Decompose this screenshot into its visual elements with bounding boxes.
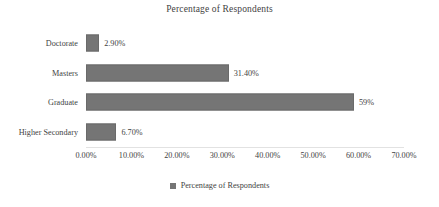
x-axis-tick-labels: 0.00%10.00%20.00%30.00%40.00%50.00%60.00…	[86, 151, 404, 165]
bar-row: Graduate 59%	[86, 88, 404, 118]
bar-doctorate[interactable]	[86, 34, 99, 51]
bar-row: Higher Secondary 6.70%	[86, 117, 404, 147]
chart-legend: Percentage of Respondents	[0, 181, 439, 190]
x-tick-label: 50.00%	[301, 151, 326, 160]
x-tick-label: 20.00%	[164, 151, 189, 160]
x-tick-label: 60.00%	[346, 151, 371, 160]
category-label-doctorate: Doctorate	[46, 38, 78, 47]
x-tick-label: 30.00%	[210, 151, 235, 160]
bar-row: Doctorate 2.90%	[86, 28, 404, 58]
category-label-graduate: Graduate	[48, 98, 78, 107]
x-tick-label: 40.00%	[255, 151, 280, 160]
plot-area: Doctorate 2.90% Masters 31.40% Graduate …	[86, 28, 404, 147]
chart-title: Percentage of Respondents	[0, 4, 439, 14]
bar-value-higher-secondary: 6.70%	[121, 128, 142, 137]
legend-label: Percentage of Respondents	[181, 181, 270, 190]
x-tick-label: 0.00%	[75, 151, 96, 160]
x-axis-line	[86, 147, 404, 148]
x-tick-label: 10.00%	[119, 151, 144, 160]
bar-value-masters: 31.40%	[234, 68, 259, 77]
bar-higher-secondary[interactable]	[86, 124, 116, 141]
bar-masters[interactable]	[86, 64, 229, 81]
bar-value-graduate: 59%	[359, 98, 374, 107]
category-label-masters: Masters	[52, 68, 78, 77]
bar-graduate[interactable]	[86, 94, 354, 111]
bar-value-doctorate: 2.90%	[104, 38, 125, 47]
bar-row: Masters 31.40%	[86, 58, 404, 88]
category-label-higher-secondary: Higher Secondary	[19, 128, 78, 137]
x-tick-label: 70.00%	[391, 151, 416, 160]
legend-swatch-icon	[170, 183, 176, 189]
bar-chart: Percentage of Respondents Doctorate 2.90…	[0, 0, 439, 207]
